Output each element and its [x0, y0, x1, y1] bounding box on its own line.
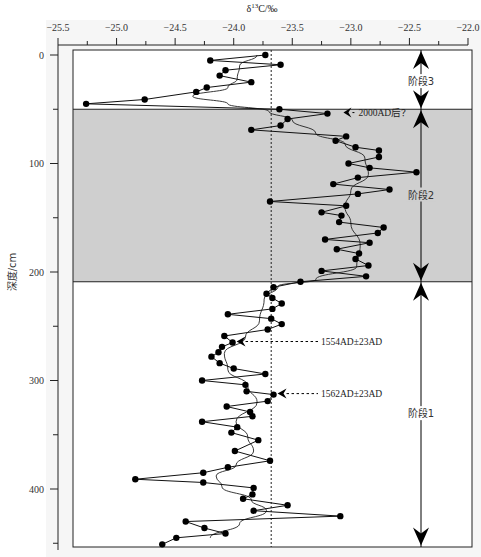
- data-point: [352, 256, 358, 262]
- data-point: [267, 458, 273, 464]
- data-point: [215, 349, 221, 355]
- stage-bands: [46, 20, 481, 557]
- data-point: [269, 306, 275, 312]
- data-point: [343, 203, 349, 209]
- data-point: [193, 89, 199, 95]
- d13c-depth-chart: −25.5−25.0−24.5−24.0−23.5−23.0−22.5−22.0…: [0, 0, 481, 557]
- data-point: [249, 413, 255, 419]
- data-point: [222, 530, 228, 536]
- data-point: [355, 191, 361, 197]
- data-point: [201, 525, 207, 531]
- data-point: [199, 377, 205, 383]
- data-point: [336, 219, 342, 225]
- data-point: [267, 198, 273, 204]
- x-tick-label: −22.5: [398, 22, 421, 33]
- data-point: [225, 311, 231, 317]
- data-point: [332, 138, 338, 144]
- data-point: [219, 344, 225, 350]
- data-point: [365, 262, 371, 268]
- data-point: [355, 174, 361, 180]
- x-axis-title: δ13C/‰: [246, 2, 277, 14]
- data-point: [338, 212, 344, 218]
- x-tick-label: −24.5: [164, 22, 187, 33]
- data-point: [207, 57, 213, 63]
- data-point: [243, 388, 249, 394]
- data-point: [363, 273, 369, 279]
- annotation-2000ad: 2000AD后？: [358, 108, 411, 118]
- data-point: [182, 518, 188, 524]
- data-point: [376, 154, 382, 160]
- data-point: [297, 279, 303, 285]
- x-tick-label: −22.0: [456, 22, 479, 33]
- data-point: [263, 291, 269, 297]
- data-point: [318, 209, 324, 215]
- data-point: [356, 250, 362, 256]
- data-point: [204, 84, 210, 90]
- data-point: [322, 236, 328, 242]
- y-tick-label: 400: [29, 484, 44, 495]
- data-point: [277, 122, 283, 128]
- data-point: [199, 419, 205, 425]
- data-point: [200, 470, 206, 476]
- data-point: [380, 224, 386, 230]
- data-point: [345, 160, 351, 166]
- data-point: [386, 186, 392, 192]
- data-point: [132, 476, 138, 482]
- data-point: [223, 403, 229, 409]
- data-point: [248, 79, 254, 85]
- data-point: [208, 353, 214, 359]
- data-point: [413, 169, 419, 175]
- data-point: [242, 382, 248, 388]
- data-point: [343, 133, 349, 139]
- data-point: [352, 144, 358, 150]
- data-point: [221, 333, 227, 339]
- stage-label: 阶段3: [408, 75, 434, 87]
- data-point: [324, 110, 330, 116]
- data-point: [248, 127, 254, 133]
- stage-label: 阶段2: [408, 189, 434, 201]
- data-point: [234, 424, 240, 430]
- x-tick-label: −24.0: [222, 22, 245, 33]
- data-point: [173, 535, 179, 541]
- x-tick-label: −23.5: [281, 22, 304, 33]
- data-point: [225, 464, 231, 470]
- data-point: [279, 321, 285, 327]
- y-tick-label: 0: [39, 50, 44, 61]
- data-point: [270, 284, 276, 290]
- data-point: [255, 437, 261, 443]
- blank-box: [370, 66, 390, 87]
- data-point: [240, 496, 246, 502]
- x-tick-label: −25.5: [46, 22, 69, 33]
- data-point: [250, 485, 256, 491]
- data-point: [249, 491, 255, 497]
- data-point: [270, 391, 276, 397]
- data-point: [262, 52, 268, 58]
- data-point: [337, 513, 343, 519]
- data-point: [268, 315, 274, 321]
- data-point: [334, 246, 340, 252]
- data-point: [141, 96, 147, 102]
- stage-label: 阶段1: [408, 407, 434, 419]
- x-tick-label: −23.0: [339, 22, 362, 33]
- y-tick-label: 100: [29, 158, 44, 169]
- data-point: [318, 268, 324, 274]
- data-point: [228, 429, 234, 435]
- data-point: [366, 165, 372, 171]
- annotation-1562ad: 1562AD±23AD: [321, 389, 382, 399]
- y-axis-title: 深度/cm: [6, 253, 18, 292]
- data-point: [159, 541, 165, 547]
- data-point: [276, 106, 282, 112]
- data-point: [216, 72, 222, 78]
- data-point: [284, 502, 290, 508]
- data-point: [200, 479, 206, 485]
- data-point: [216, 360, 222, 366]
- data-point: [269, 295, 275, 301]
- annotation-1554ad: 1554AD±23AD: [321, 337, 382, 347]
- data-point: [279, 300, 285, 306]
- data-point: [83, 101, 89, 107]
- y-tick-label: 300: [29, 375, 44, 386]
- data-point: [231, 365, 237, 371]
- data-point: [232, 448, 238, 454]
- data-point: [250, 508, 256, 514]
- data-point: [262, 371, 268, 377]
